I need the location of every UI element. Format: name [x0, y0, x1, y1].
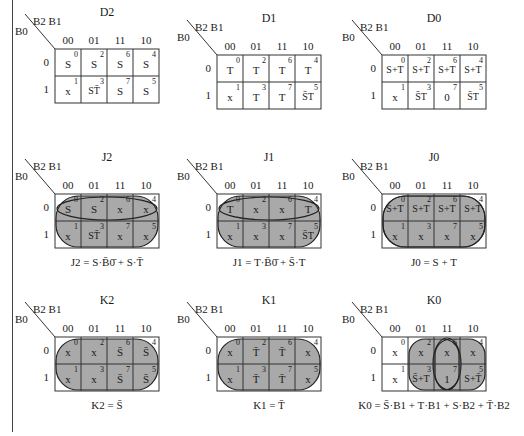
kmap-cell-value: x: [382, 373, 408, 385]
kmap-cell-value: x: [408, 346, 434, 358]
column-code: 00: [382, 322, 408, 334]
kmap-equation: K0 = S̄·B1 + T·B1 + S·B2 + T̄·B2: [354, 399, 514, 411]
column-code: 10: [460, 322, 486, 334]
kmap-cell-value: S+T̄: [460, 373, 486, 384]
kmap-cell-index: 3: [421, 365, 431, 374]
column-code: 01: [408, 322, 434, 334]
kmap-title: K0: [404, 293, 464, 308]
kmap-k0: K0B2 B1B00001111001x0x2x6x4x1S̄+T317S+T̄…: [0, 0, 524, 436]
kmap-cell-value: x: [434, 346, 460, 358]
kmap-grid-graphic: [0, 0, 524, 436]
kmap-cell-index: 0: [395, 338, 405, 347]
row-variable-label: B0: [342, 313, 355, 325]
kmap-cell-index: 5: [473, 365, 483, 374]
kmap-cell-index: 2: [421, 338, 431, 347]
kmap-cell-value: 1: [434, 373, 460, 385]
kmap-cell-value: x: [382, 346, 408, 358]
column-code: 11: [434, 322, 460, 334]
row-code: 1: [364, 371, 376, 383]
kmap-cell-value: S̄+T: [408, 373, 434, 384]
kmap-cell-index: 1: [395, 365, 405, 374]
kmap-cell-index: 7: [447, 365, 457, 374]
kmap-cell-index: 4: [473, 338, 483, 347]
kmap-cell-index: 6: [447, 338, 457, 347]
column-variables-label: B2 B1: [360, 303, 388, 315]
kmap-cell-value: x: [460, 346, 486, 358]
row-code: 0: [364, 344, 376, 356]
